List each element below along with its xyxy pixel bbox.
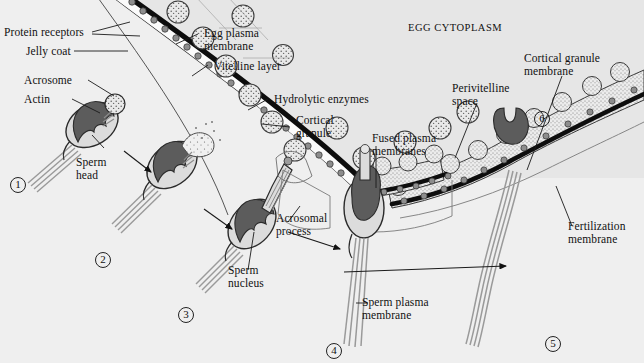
label-cortical-granule: Cortical granule xyxy=(296,114,334,139)
step-number-4: 4 xyxy=(326,343,342,359)
label-acrosome: Acrosome xyxy=(24,74,72,87)
label-vitelline-layer: Vitelline layer xyxy=(214,60,281,73)
label-perivitelline-space: Perivitelline space xyxy=(452,82,510,107)
label-cortical-granule-membrane: Cortical granule membrane xyxy=(524,52,600,77)
step-number-6: 6 xyxy=(534,111,550,127)
label-fused-plasma-membranes: Fused plasma membranes xyxy=(372,132,436,157)
label-egg-cytoplasm: Egg cytoplasm xyxy=(408,22,502,35)
step-number-5: 5 xyxy=(545,336,561,352)
label-acrosomal-process: Acrosomal process xyxy=(276,212,327,237)
acrosomal-process-4 xyxy=(360,150,370,180)
label-protein-receptors: Protein receptors xyxy=(4,26,84,39)
label-egg-plasma-membrane: Egg plasma membrane xyxy=(204,27,259,52)
step-number-1: 1 xyxy=(10,177,26,193)
label-sperm-head: Sperm head xyxy=(76,156,107,181)
acrosome-1 xyxy=(105,94,125,114)
label-hydrolytic-enzymes: Hydrolytic enzymes xyxy=(274,93,369,106)
label-actin: Actin xyxy=(24,93,50,106)
step-number-3: 3 xyxy=(178,307,194,323)
acrosomal-process-tip-3 xyxy=(284,157,292,165)
step-number-2: 2 xyxy=(95,252,111,268)
label-jelly-coat: Jelly coat xyxy=(26,45,71,58)
label-fertilization-membrane: Fertilization membrane xyxy=(568,220,626,245)
acrosomal-tip-4 xyxy=(361,145,370,154)
label-sperm-plasma-membrane: Sperm plasma membrane xyxy=(362,296,429,321)
label-sperm-nucleus: Sperm nucleus xyxy=(228,264,264,289)
